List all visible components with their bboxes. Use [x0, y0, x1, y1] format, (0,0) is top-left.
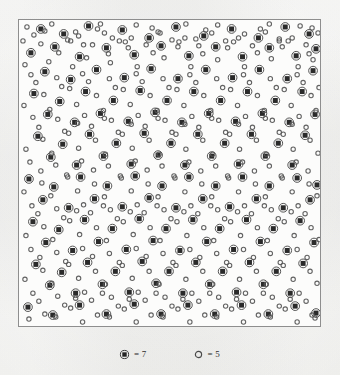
legend-entry-7: = 7 [119, 349, 146, 360]
legend-entry-5: = 5 [193, 349, 220, 360]
legend: = 7 = 5 [18, 343, 321, 365]
legend-label-7: = 7 [134, 349, 146, 359]
open-circle-marker-icon [193, 349, 204, 360]
series-open-circle [21, 22, 320, 324]
filled-square-marker-icon [119, 349, 130, 360]
legend-label-5: = 5 [208, 349, 220, 359]
series-filled-square-with-ring [24, 22, 320, 320]
scatter-figure: = 7 = 5 [0, 0, 340, 375]
plot-frame [18, 19, 321, 327]
scatter-plot-canvas [19, 20, 320, 326]
